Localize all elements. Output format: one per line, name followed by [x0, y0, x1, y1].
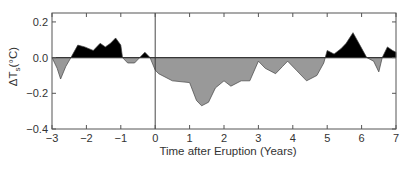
y-tick-label: 0.2	[33, 16, 48, 28]
y-tick-label: −0.4	[26, 123, 48, 135]
x-tick-label: 0	[152, 132, 158, 144]
x-axis-title: Time after Eruption (Years)	[159, 145, 296, 157]
x-tick-label: 1	[187, 132, 193, 144]
y-axis-title-main: ΔT	[7, 71, 19, 86]
temperature-anomaly-chart: −3−2−101234567 0.20.0−0.2−0.4 Time after…	[0, 0, 409, 170]
anomaly-fill-areas	[52, 33, 396, 106]
x-tick-label: 7	[393, 132, 399, 144]
x-tick-label: 2	[221, 132, 227, 144]
negative-anomaly-area	[52, 58, 396, 106]
x-tick-label: 5	[324, 132, 330, 144]
y-tick-label: −0.2	[26, 87, 48, 99]
positive-anomaly-area	[52, 33, 396, 58]
y-axis-title: ΔTs(°C)	[7, 47, 22, 86]
x-tick-label: 4	[290, 132, 296, 144]
y-axis-title-unit: (°C)	[7, 47, 19, 68]
y-tick-label: 0.0	[33, 52, 48, 64]
x-tick-label: 6	[359, 132, 365, 144]
x-tick-label: −2	[80, 132, 93, 144]
x-tick-label: −1	[115, 132, 128, 144]
x-tick-label: 3	[255, 132, 261, 144]
